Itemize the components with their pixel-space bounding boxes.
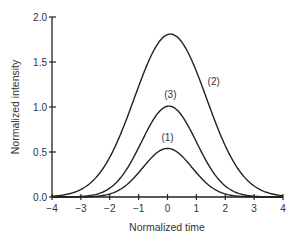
y-tick-label: 1.0 [33, 102, 47, 113]
x-tick-label: 0 [165, 203, 171, 214]
y-tick-label: 0.5 [33, 147, 47, 158]
x-tick-label: 1 [194, 203, 200, 214]
curves [52, 34, 283, 197]
y-axis: 0.00.51.01.52.0 [33, 12, 56, 203]
curve-1 [52, 148, 283, 197]
x-tick-label: −1 [133, 203, 145, 214]
x-tick-label: −2 [104, 203, 116, 214]
y-tick-label: 0.0 [33, 192, 47, 203]
chart: 0.00.51.01.52.0 −4−3−2−101234 (1)(2)(3) … [0, 0, 301, 241]
x-tick-label: 2 [222, 203, 228, 214]
x-tick-label: −3 [75, 203, 87, 214]
x-axis-label: Normalized time [129, 221, 205, 233]
curve-label: (3) [164, 89, 176, 100]
curve-2 [52, 34, 283, 196]
curve-label: (2) [208, 76, 220, 87]
x-tick-label: 4 [280, 203, 286, 214]
y-tick-label: 2.0 [33, 12, 47, 23]
x-tick-label: 3 [251, 203, 257, 214]
curve-3 [52, 106, 283, 197]
y-axis-label: Normalized intensity [9, 59, 21, 154]
curve-label: (1) [161, 132, 173, 143]
y-tick-label: 1.5 [33, 57, 47, 68]
x-tick-label: −4 [46, 203, 58, 214]
